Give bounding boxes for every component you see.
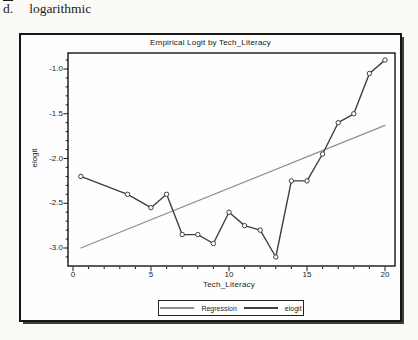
legend-swatch	[160, 307, 194, 309]
x-axis-label: Tech_Literacy	[169, 280, 289, 289]
answer-option-text: logarithmic	[29, 1, 91, 16]
plot-svg	[60, 45, 403, 274]
y-tick-label: -3.0	[33, 243, 63, 252]
legend-label-regression: Regression	[201, 305, 236, 312]
chart-frame: Empirical Logit by Tech_Literacy elogit …	[19, 33, 402, 322]
legend: Regression elogit	[158, 300, 304, 316]
answer-option-letter: d.	[3, 1, 13, 16]
y-tick-label: -2.0	[33, 154, 63, 163]
x-tick-label: 0	[61, 270, 85, 279]
y-tick-label: -1.5	[33, 109, 63, 118]
y-tick-label: -1.0	[33, 64, 63, 73]
x-tick-label: 20	[373, 270, 397, 279]
legend-label-elogit: elogit	[285, 305, 302, 312]
y-tick-label: -2.5	[33, 198, 63, 207]
x-tick-label: 10	[217, 270, 241, 279]
legend-swatch	[244, 307, 278, 309]
x-tick-label: 15	[295, 270, 319, 279]
answer-option-line: d.logarithmic	[3, 1, 91, 17]
x-tick-label: 5	[139, 270, 163, 279]
